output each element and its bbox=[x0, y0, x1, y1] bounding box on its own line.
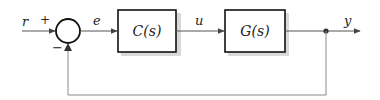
feedback-arrowhead-icon bbox=[64, 43, 72, 51]
reference-label: r bbox=[22, 14, 29, 29]
summing-junction: + − bbox=[40, 13, 80, 55]
controller-block: C(s) bbox=[118, 10, 181, 56]
block-diagram: r + − e C(s) u G(s) y bbox=[0, 0, 380, 100]
controller-label: C(s) bbox=[133, 23, 162, 39]
control-signal: u bbox=[176, 13, 224, 31]
error-signal: e bbox=[80, 13, 117, 31]
plant-label: G(s) bbox=[240, 23, 269, 39]
error-label: e bbox=[93, 13, 101, 28]
control-label: u bbox=[195, 13, 203, 28]
minus-sign: − bbox=[52, 40, 63, 55]
plus-sign: + bbox=[40, 13, 50, 27]
output-label: y bbox=[343, 13, 352, 28]
plant-block: G(s) bbox=[225, 10, 289, 56]
output-signal: y bbox=[285, 13, 360, 34]
